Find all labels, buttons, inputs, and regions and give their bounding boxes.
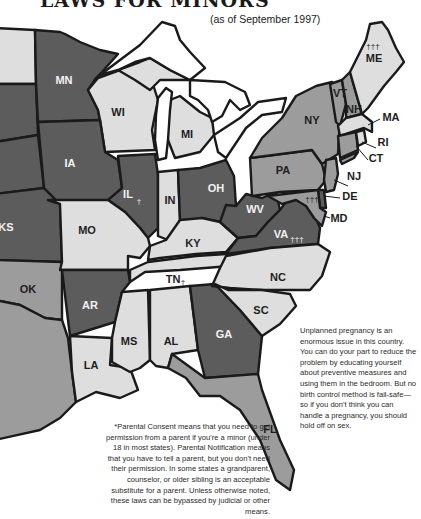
label-tn: TN <box>166 273 181 285</box>
lake-michigan <box>155 88 172 160</box>
label-sc: SC <box>253 304 268 316</box>
label-ma: MA <box>382 111 399 123</box>
note-unplanned-pregnancy: Unplanned pregnancy is an enormous issue… <box>300 326 418 432</box>
state-nj[interactable] <box>324 158 338 192</box>
state-me[interactable] <box>350 22 404 114</box>
state-ny[interactable] <box>250 82 340 164</box>
label-va: VA <box>274 228 289 240</box>
note-parental-consent: *Parental Consent means that you need to… <box>100 422 270 517</box>
label-mn: MN <box>55 74 72 86</box>
label-ky: KY <box>185 237 201 249</box>
label-la: LA <box>84 359 99 371</box>
state-sd[interactable] <box>0 84 38 142</box>
label-al: AL <box>164 335 179 347</box>
label-vt: VT <box>333 87 347 99</box>
leader-ri <box>362 142 376 148</box>
label-ar: AR <box>82 299 98 311</box>
label-in: IN <box>165 194 176 206</box>
mark-md: ††† <box>305 195 318 204</box>
label-ms: MS <box>121 335 138 347</box>
label-de: DE <box>342 190 357 202</box>
label-mi: MI <box>181 128 193 140</box>
mark-tn: † <box>181 278 185 287</box>
label-ny: NY <box>304 114 320 126</box>
label-mo: MO <box>78 224 96 236</box>
label-ia: IA <box>65 157 76 169</box>
label-wi: WI <box>111 106 124 118</box>
label-ri: RI <box>378 136 389 148</box>
label-wv: WV <box>246 203 264 215</box>
label-oh: OH <box>208 182 225 194</box>
label-me: ME <box>366 52 383 64</box>
label-ks: KS <box>0 221 14 233</box>
state-ne[interactable] <box>0 135 44 194</box>
leader-de <box>324 196 340 198</box>
state-nd[interactable] <box>0 28 36 84</box>
label-il: IL <box>123 188 133 200</box>
label-ct: CT <box>369 152 384 164</box>
label-nc: NC <box>270 271 286 283</box>
mark-il: † <box>137 197 141 206</box>
label-ga: GA <box>216 328 233 340</box>
mark-me: ††† <box>366 42 379 51</box>
state-tx[interactable] <box>0 300 76 440</box>
label-pa: PA <box>276 164 291 176</box>
label-nj: NJ <box>347 170 361 182</box>
label-ok: OK <box>20 283 37 295</box>
label-nh: NH <box>346 103 362 115</box>
label-md: MD <box>330 212 347 224</box>
mark-va: ††† <box>290 235 303 244</box>
